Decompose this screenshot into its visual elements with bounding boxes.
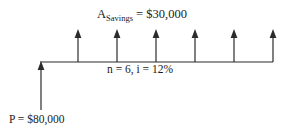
- annuity-arrow-6: [270, 29, 277, 62]
- annuity-label: ASavings = $30,000: [97, 8, 187, 21]
- annuity-value: = $30,000: [133, 7, 187, 21]
- annuity-arrow-group: [75, 29, 277, 62]
- annuity-arrow-4: [192, 29, 199, 62]
- annuity-arrow-1: [75, 29, 82, 62]
- annuity-arrow-3: [153, 29, 160, 62]
- period-interest-label: n = 6, i = 12%: [107, 64, 173, 76]
- cash-flow-diagram: ASavings = $30,000 n = 6, i = 12% P = $8…: [0, 0, 288, 131]
- annuity-subscript: Savings: [106, 13, 133, 23]
- annuity-arrow-5: [231, 29, 238, 62]
- annuity-symbol: A: [97, 7, 106, 21]
- principal-arrow: [38, 61, 45, 110]
- principal-label: P = $80,000: [9, 114, 65, 126]
- annuity-arrow-2: [114, 29, 121, 62]
